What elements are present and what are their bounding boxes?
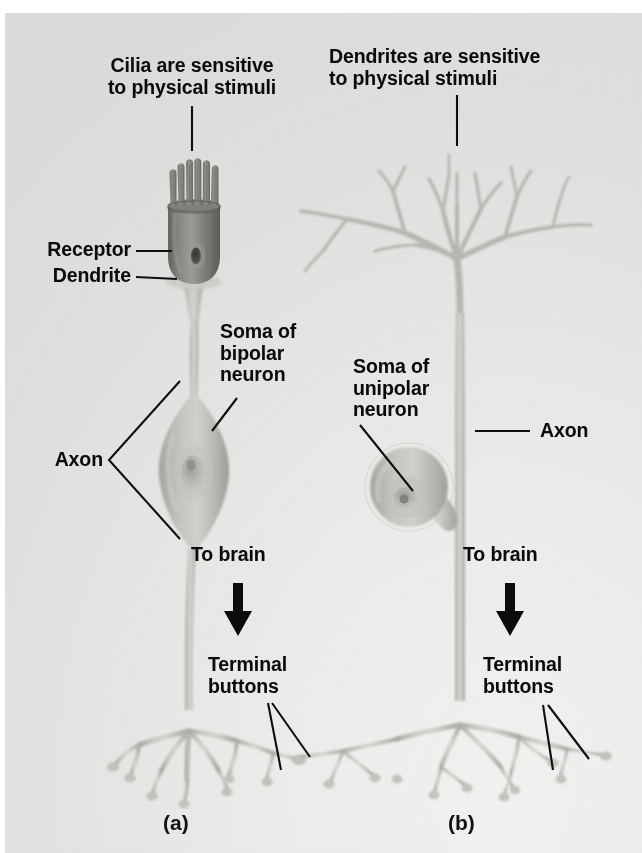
label-soma-bipolar: Soma of bipolar neuron <box>220 321 338 386</box>
bipolar-neuron <box>107 158 306 808</box>
leader-dendrite <box>136 277 177 279</box>
figure-root: Cilia are sensitive to physical stimuli … <box>0 0 642 853</box>
caption-a: (a) <box>163 811 189 835</box>
label-to-brain-a: To brain <box>191 544 321 566</box>
label-terminal-buttons-b: Terminal buttons <box>483 654 608 697</box>
label-axon-a: Axon <box>5 449 103 471</box>
unipolar-nucleolus <box>400 495 409 504</box>
to-brain-arrow-a <box>224 583 252 636</box>
label-dendrites-sensitive: Dendrites are sensitive to physical stim… <box>329 46 599 89</box>
caption-b: (b) <box>448 811 475 835</box>
terminal-buttons-a <box>107 755 306 808</box>
bipolar-soma <box>159 393 229 553</box>
to-brain-arrow-b <box>496 583 524 636</box>
dendrite-tree-b <box>301 155 591 313</box>
cilia <box>170 158 219 205</box>
diagram-plate: Cilia are sensitive to physical stimuli … <box>5 13 642 853</box>
leader-soma-bipolar <box>212 398 237 431</box>
label-terminal-buttons-a: Terminal buttons <box>208 654 333 697</box>
receptor-nucleus <box>191 248 201 265</box>
label-axon-b: Axon <box>540 420 630 442</box>
label-receptor: Receptor <box>5 239 131 261</box>
bipolar-nucleolus <box>187 460 196 471</box>
label-soma-unipolar: Soma of unipolar neuron <box>353 356 483 421</box>
label-cilia-sensitive: Cilia are sensitive to physical stimuli <box>79 55 305 98</box>
terminal-tree-a <box>115 710 297 801</box>
leader-terminal-b-2 <box>548 705 589 759</box>
label-dendrite: Dendrite <box>5 265 131 287</box>
unipolar-neuron <box>292 155 612 801</box>
label-to-brain-b: To brain <box>463 544 593 566</box>
